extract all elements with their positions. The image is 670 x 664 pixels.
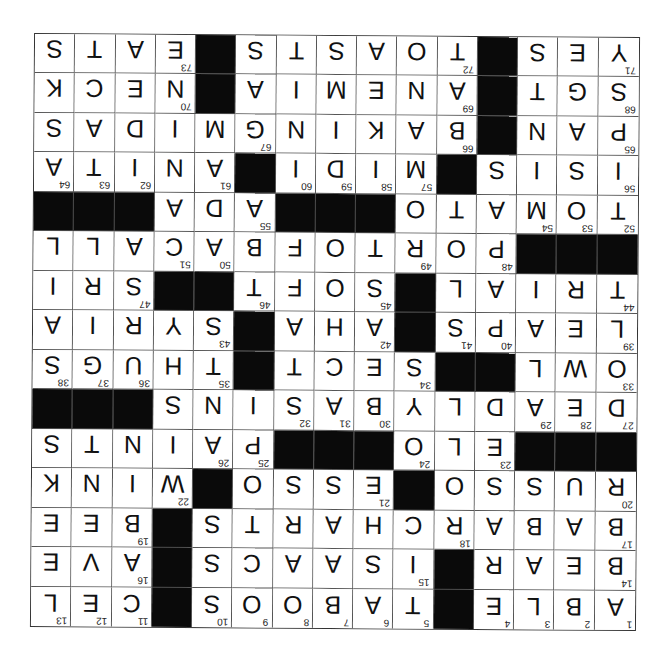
crossword-cell[interactable]: 67G [236, 114, 277, 154]
crossword-cell[interactable]: A [558, 116, 599, 156]
crossword-cell[interactable]: 10S [192, 588, 233, 628]
crossword-cell[interactable]: N [397, 76, 438, 116]
crossword-cell[interactable]: 31A [314, 391, 355, 431]
crossword-cell[interactable]: 46T [234, 272, 275, 312]
crossword-cell[interactable]: I [33, 271, 74, 311]
crossword-cell[interactable]: 42A [355, 312, 396, 352]
crossword-cell[interactable]: 57M [396, 155, 437, 195]
crossword-cell[interactable]: 55A [235, 193, 276, 233]
crossword-cell[interactable]: 69A [437, 76, 478, 116]
crossword-cell[interactable]: E [355, 352, 396, 392]
crossword-cell[interactable]: 68S [598, 77, 639, 117]
crossword-cell[interactable]: 62I [115, 153, 156, 193]
crossword-cell[interactable]: S [192, 548, 233, 588]
crossword-cell[interactable]: S [515, 471, 556, 511]
crossword-cell[interactable]: I [316, 115, 357, 155]
crossword-cell[interactable]: K [35, 73, 76, 113]
crossword-cell[interactable]: I [155, 114, 196, 154]
crossword-cell[interactable]: 17B [595, 511, 636, 551]
crossword-cell[interactable]: R [273, 509, 314, 549]
crossword-cell[interactable]: O [434, 471, 475, 511]
crossword-cell[interactable]: 11C [111, 587, 152, 627]
crossword-cell[interactable]: E [558, 38, 599, 78]
crossword-cell[interactable]: N [276, 115, 317, 155]
crossword-cell[interactable]: 16A [112, 548, 153, 588]
crossword-cell[interactable]: A [114, 232, 155, 272]
crossword-cell[interactable]: I [234, 390, 275, 430]
crossword-cell[interactable]: O [436, 234, 477, 274]
crossword-cell[interactable]: C [394, 510, 435, 550]
crossword-cell[interactable]: S [236, 35, 277, 75]
crossword-cell[interactable]: 58I [356, 155, 397, 195]
crossword-cell[interactable]: F [275, 272, 316, 312]
crossword-cell[interactable]: 9O [232, 588, 273, 628]
crossword-cell[interactable]: R [73, 271, 114, 311]
crossword-cell[interactable]: L [435, 392, 476, 432]
crossword-cell[interactable]: 24O [394, 431, 435, 471]
crossword-cell[interactable]: 40P [476, 313, 517, 353]
crossword-cell[interactable]: 23E [475, 432, 516, 472]
crossword-cell[interactable]: 54M [517, 195, 558, 235]
crossword-cell[interactable]: 38S [33, 350, 74, 390]
crossword-cell[interactable]: M [316, 75, 357, 115]
crossword-cell[interactable]: G [558, 77, 599, 117]
crossword-cell[interactable]: E [357, 76, 398, 116]
crossword-cell[interactable]: A [477, 195, 518, 235]
crossword-cell[interactable]: 12E [71, 587, 112, 627]
crossword-cell[interactable]: S [317, 36, 358, 76]
crossword-cell[interactable]: I [276, 75, 317, 115]
crossword-cell[interactable]: Y [395, 392, 436, 432]
crossword-cell[interactable]: E [556, 314, 597, 354]
crossword-cell[interactable]: 13L [31, 586, 72, 626]
crossword-cell[interactable]: S [477, 155, 518, 195]
crossword-cell[interactable]: R [113, 311, 154, 351]
crossword-cell[interactable]: K [32, 468, 73, 508]
crossword-cell[interactable]: T [276, 36, 317, 76]
crossword-cell[interactable]: 36U [113, 350, 154, 390]
crossword-cell[interactable]: 48P [476, 234, 517, 274]
crossword-cell[interactable]: H [354, 510, 395, 550]
crossword-cell[interactable]: M [195, 114, 236, 154]
crossword-cell[interactable]: A [274, 312, 315, 352]
crossword-cell[interactable]: Y [154, 311, 195, 351]
crossword-cell[interactable]: 4E [474, 590, 515, 630]
crossword-cell[interactable]: T [436, 195, 477, 235]
crossword-cell[interactable]: C [75, 74, 116, 114]
crossword-cell[interactable]: I [112, 469, 153, 509]
crossword-cell[interactable]: 6A [353, 589, 394, 629]
crossword-cell[interactable]: 5T [393, 589, 434, 629]
crossword-cell[interactable]: N [193, 390, 234, 430]
crossword-cell[interactable]: 72T [437, 37, 478, 77]
crossword-cell[interactable]: 21E [354, 470, 395, 510]
crossword-cell[interactable]: 27D [596, 393, 637, 433]
crossword-cell[interactable]: O [397, 36, 438, 76]
crossword-cell[interactable]: D [115, 113, 156, 153]
crossword-cell[interactable]: 2B [554, 590, 595, 630]
crossword-cell[interactable]: 47S [114, 271, 155, 311]
crossword-cell[interactable]: 43S [194, 311, 235, 351]
crossword-cell[interactable]: A [313, 549, 354, 589]
crossword-cell[interactable]: 32S [274, 391, 315, 431]
crossword-cell[interactable]: 37G [73, 350, 114, 390]
crossword-cell[interactable]: F [275, 233, 316, 273]
crossword-cell[interactable]: A [397, 115, 438, 155]
crossword-cell[interactable]: A [516, 314, 557, 354]
crossword-cell[interactable]: A [357, 36, 398, 76]
crossword-cell[interactable]: T [518, 77, 559, 117]
crossword-cell[interactable]: A [474, 511, 515, 551]
crossword-cell[interactable]: 61A [195, 153, 236, 193]
crossword-cell[interactable]: D [195, 193, 236, 233]
crossword-cell[interactable]: 20R [595, 472, 636, 512]
crossword-cell[interactable]: 41S [436, 313, 477, 353]
crossword-cell[interactable]: R [474, 550, 515, 590]
crossword-cell[interactable]: 51C [154, 232, 195, 272]
crossword-cell[interactable]: 73E [156, 35, 197, 75]
crossword-cell[interactable]: L [436, 274, 477, 314]
crossword-cell[interactable]: 34S [395, 352, 436, 392]
crossword-cell[interactable]: 71Y [599, 38, 640, 78]
crossword-cell[interactable]: S [518, 37, 559, 77]
crossword-cell[interactable]: 59D [316, 154, 357, 194]
crossword-cell[interactable]: S [273, 470, 314, 510]
crossword-cell[interactable]: C [233, 548, 274, 588]
crossword-cell[interactable]: 52T [597, 196, 638, 236]
